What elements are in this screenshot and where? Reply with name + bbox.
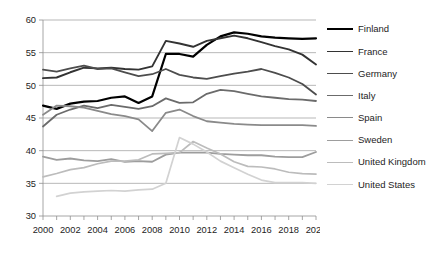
legend-item-label: Italy xyxy=(358,91,375,101)
legend-swatch-icon xyxy=(327,95,353,96)
series-line-united-kingdom xyxy=(43,142,316,177)
legend-item-germany[interactable]: Germany xyxy=(327,62,438,84)
ytick-label-50: 50 xyxy=(26,81,36,91)
ytick-label-35: 35 xyxy=(26,179,36,189)
xtick-label-2004: 2004 xyxy=(87,225,108,235)
legend-item-finland[interactable]: Finland xyxy=(327,18,438,40)
legend-item-sweden[interactable]: Sweden xyxy=(327,129,438,151)
chart-legend: FinlandFranceGermanyItalySpainSwedenUnit… xyxy=(327,18,438,196)
xtick-label-2012: 2012 xyxy=(196,225,217,235)
xtick-label-2020: 2020 xyxy=(306,225,320,235)
legend-item-label: United States xyxy=(358,180,415,190)
series-line-france xyxy=(43,36,316,78)
legend-item-label: Germany xyxy=(358,69,397,79)
legend-swatch-icon xyxy=(327,51,353,52)
legend-item-united-kingdom[interactable]: United Kingdom xyxy=(327,151,438,173)
ytick-label-40: 40 xyxy=(26,146,36,156)
legend-item-label: France xyxy=(358,47,388,57)
legend-swatch-icon xyxy=(327,73,353,74)
ytick-label-30: 30 xyxy=(26,211,36,221)
xtick-label-2014: 2014 xyxy=(224,225,245,235)
line-chart: 3035404550556020002002200420062008201020… xyxy=(0,0,438,254)
legend-item-label: Sweden xyxy=(358,135,392,145)
legend-swatch-icon xyxy=(327,184,353,185)
series-line-germany xyxy=(43,66,316,95)
legend-item-united-states[interactable]: United States xyxy=(327,173,438,195)
xtick-label-2016: 2016 xyxy=(251,225,272,235)
ytick-label-60: 60 xyxy=(26,15,36,25)
legend-item-france[interactable]: France xyxy=(327,40,438,62)
xtick-label-2006: 2006 xyxy=(115,225,136,235)
xtick-label-2010: 2010 xyxy=(169,225,190,235)
ytick-label-45: 45 xyxy=(26,113,36,123)
xtick-label-2018: 2018 xyxy=(278,225,299,235)
legend-swatch-icon xyxy=(327,162,353,163)
legend-swatch-icon xyxy=(327,28,353,30)
legend-item-spain[interactable]: Spain xyxy=(327,107,438,129)
chart-svg: 3035404550556020002002200420062008201020… xyxy=(0,0,320,254)
plot-area: 3035404550556020002002200420062008201020… xyxy=(0,0,320,254)
legend-item-italy[interactable]: Italy xyxy=(327,85,438,107)
legend-item-label: Spain xyxy=(358,113,382,123)
ytick-label-55: 55 xyxy=(26,48,36,58)
legend-item-label: Finland xyxy=(358,24,389,34)
xtick-label-2008: 2008 xyxy=(142,225,163,235)
xtick-label-2002: 2002 xyxy=(60,225,81,235)
legend-item-label: United Kingdom xyxy=(358,157,426,167)
legend-swatch-icon xyxy=(327,140,353,141)
xtick-label-2000: 2000 xyxy=(33,225,54,235)
legend-swatch-icon xyxy=(327,117,353,118)
